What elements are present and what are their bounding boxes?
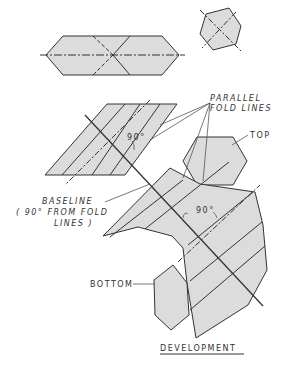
parallel-label: PARALLEL [210,94,261,104]
top-face [183,137,247,185]
angle-label-oblique: 90° [127,133,146,143]
development-diagram: PARALLEL FOLD LINES TOP 90° BASELINE ( 9… [0,0,293,367]
drawing-canvas [0,0,293,367]
baseline-note-1: ( 90° FROM FOLD [16,208,108,218]
angle-label-development: 90° [196,206,215,216]
end-view-hexagon [200,8,241,50]
bottom-face [154,265,189,330]
baseline-note-2: LINES ) [54,219,93,229]
top-label: TOP [250,131,271,141]
oblique-prism-view [45,104,177,175]
baseline-label: BASELINE [42,197,93,207]
bottom-label: BOTTOM [90,280,133,290]
development-title: DEVELOPMENT [160,344,236,354]
fold-lines-label: FOLD LINES [210,104,272,114]
